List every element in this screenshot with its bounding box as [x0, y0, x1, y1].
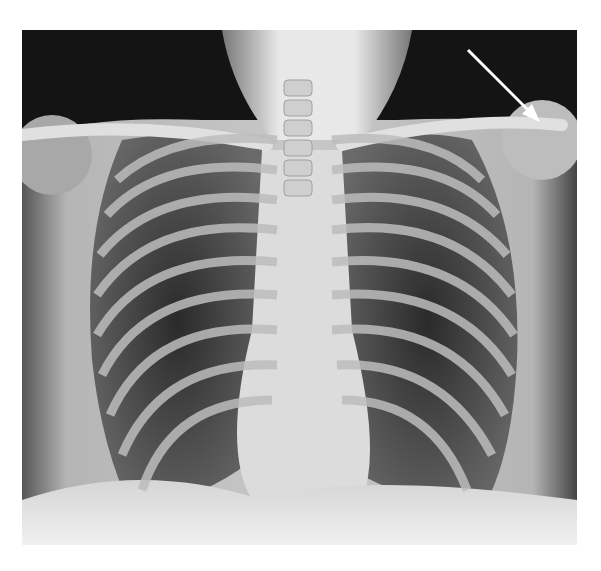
- chest-xray-image: [22, 30, 577, 545]
